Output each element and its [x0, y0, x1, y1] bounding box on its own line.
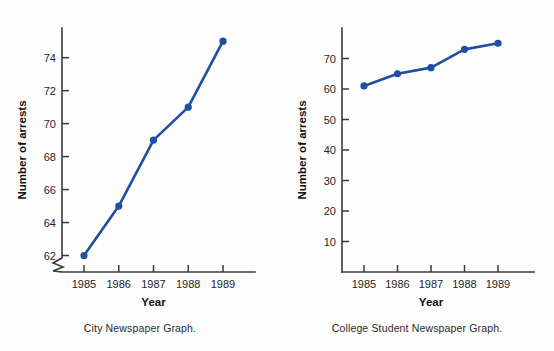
caption-college-student-newspaper: College Student Newspaper Graph.	[280, 322, 554, 334]
x-tick-label: 1989	[486, 278, 510, 290]
data-point	[115, 202, 122, 209]
y-tick-label: 70	[324, 53, 336, 65]
chart-panel-college-student-newspaper: 1020304050607019851986198719881989 YearN…	[280, 0, 554, 351]
x-tick-label: 1988	[452, 278, 476, 290]
x-axis-title: Year	[419, 296, 444, 308]
y-tick-label: 10	[324, 236, 336, 248]
data-point	[360, 82, 367, 89]
x-tick-label: 1988	[176, 278, 200, 290]
data-point	[150, 137, 157, 144]
y-axis-title: Number of arrests	[16, 100, 28, 199]
figure-root: 6264666870727419851986198719881989 YearN…	[0, 0, 554, 351]
x-tick-label: 1989	[211, 278, 235, 290]
y-tick-label: 20	[324, 205, 336, 217]
data-point	[461, 46, 468, 53]
right-chart-series	[360, 40, 501, 90]
right-chart-labels: YearNumber of arrests	[296, 100, 444, 308]
college-student-newspaper-chart: 1020304050607019851986198719881989 YearN…	[280, 0, 554, 320]
data-point	[185, 104, 192, 111]
data-point	[80, 252, 87, 259]
y-tick-label: 70	[44, 118, 56, 130]
data-point	[427, 64, 434, 71]
x-tick-label: 1985	[352, 278, 376, 290]
data-point	[219, 38, 226, 45]
y-tick-label: 30	[324, 175, 336, 187]
data-point	[394, 70, 401, 77]
data-line	[84, 41, 223, 255]
y-tick-label: 72	[44, 85, 56, 97]
chart-panel-city-newspaper: 6264666870727419851986198719881989 YearN…	[0, 0, 280, 351]
y-axis-title: Number of arrests	[296, 100, 308, 199]
x-tick-label: 1986	[385, 278, 409, 290]
x-tick-label: 1986	[107, 278, 131, 290]
y-tick-label: 64	[44, 217, 56, 229]
y-tick-label: 50	[324, 114, 336, 126]
x-tick-label: 1985	[72, 278, 96, 290]
y-tick-label: 68	[44, 151, 56, 163]
y-tick-label: 62	[44, 250, 56, 262]
left-chart-axes	[53, 28, 255, 272]
left-chart-ticks: 6264666870727419851986198719881989	[44, 52, 235, 290]
data-point	[494, 40, 501, 47]
x-axis-title: Year	[141, 296, 166, 308]
x-tick-label: 1987	[419, 278, 443, 290]
y-tick-label: 74	[44, 52, 56, 64]
x-tick-label: 1987	[141, 278, 165, 290]
city-newspaper-chart: 6264666870727419851986198719881989 YearN…	[0, 0, 280, 320]
y-tick-label: 40	[324, 144, 336, 156]
y-tick-label: 60	[324, 83, 336, 95]
left-chart-labels: YearNumber of arrests	[16, 100, 166, 308]
left-chart-series	[80, 38, 226, 260]
right-chart-ticks: 1020304050607019851986198719881989	[324, 53, 510, 291]
y-tick-label: 66	[44, 184, 56, 196]
caption-city-newspaper: City Newspaper Graph.	[0, 322, 280, 334]
